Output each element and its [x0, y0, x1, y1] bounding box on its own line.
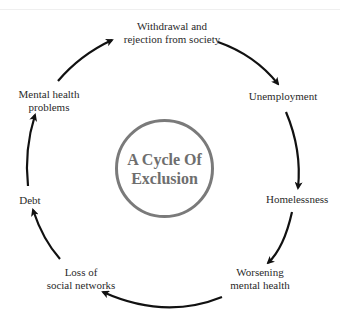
- node-debt: Debt: [16, 194, 44, 207]
- arrow-loss-to-debt: [33, 210, 60, 259]
- node-label-line: Homelessness: [266, 193, 326, 206]
- node-label-line: Worsening: [228, 266, 292, 279]
- arrow-withdrawal-to-unemployment: [218, 42, 278, 84]
- node-label-line: rejection from society: [117, 33, 227, 46]
- center-title-line2: Exclusion: [131, 169, 198, 188]
- node-homelessness: Homelessness: [266, 193, 326, 206]
- arrow-mental-to-withdrawal: [58, 40, 112, 81]
- node-label-line: Mental health: [14, 88, 84, 101]
- arrow-worsening-to-loss: [103, 292, 222, 307]
- node-label-line: Unemployment: [248, 90, 318, 103]
- node-label-line: problems: [14, 101, 84, 114]
- center-circle: A Cycle Of Exclusion: [115, 119, 214, 218]
- arrow-debt-to-mental: [27, 115, 35, 186]
- node-label-line: mental health: [228, 279, 292, 292]
- arrow-unemployment-to-homelessness: [286, 112, 299, 188]
- node-withdrawal: Withdrawal and rejection from society: [117, 20, 227, 46]
- node-worsening-mental-health: Worsening mental health: [228, 266, 292, 292]
- node-label-line: Loss of: [45, 266, 117, 279]
- node-label-line: Debt: [16, 194, 44, 207]
- node-label-line: social networks: [45, 279, 117, 292]
- center-title-line1: A Cycle Of: [127, 150, 202, 169]
- node-loss-of-social-networks: Loss of social networks: [45, 266, 117, 292]
- arrow-homelessness-to-worsening: [268, 212, 292, 263]
- node-label-line: Withdrawal and: [117, 20, 227, 33]
- node-unemployment: Unemployment: [248, 90, 318, 103]
- node-mental-health-problems: Mental health problems: [14, 88, 84, 114]
